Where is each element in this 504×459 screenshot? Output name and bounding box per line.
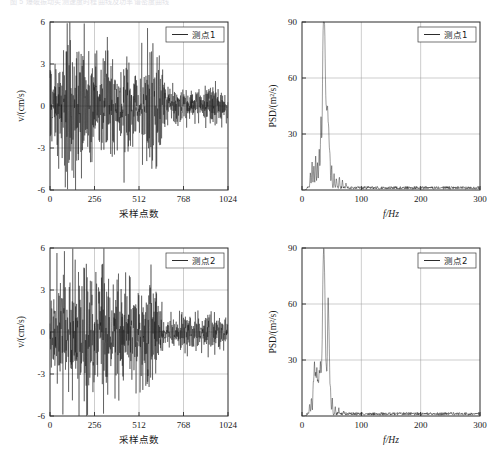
- svg-text:256: 256: [88, 194, 102, 204]
- svg-text:-3: -3: [38, 143, 46, 153]
- svg-text:60: 60: [288, 299, 298, 309]
- svg-text:256: 256: [88, 420, 102, 430]
- svg-text:30: 30: [288, 355, 298, 365]
- svg-text:0: 0: [48, 194, 53, 204]
- panel-top-right: 0100200300906030f/HzPSD/(m²/s)测点1: [252, 14, 504, 230]
- svg-text:-6: -6: [38, 411, 46, 421]
- svg-text:测点2: 测点2: [444, 256, 467, 266]
- svg-text:200: 200: [414, 420, 428, 430]
- svg-text:6: 6: [41, 243, 46, 253]
- svg-text:6: 6: [41, 17, 46, 27]
- panel-bottom-right: 0100200300906030f/HzPSD/(m²/s)测点2: [252, 240, 504, 456]
- svg-text:PSD/(m²/s): PSD/(m²/s): [268, 311, 279, 354]
- svg-text:300: 300: [473, 194, 487, 204]
- svg-text:512: 512: [132, 194, 146, 204]
- svg-text:0: 0: [41, 101, 46, 111]
- svg-text:PSD/(m²/s): PSD/(m²/s): [268, 85, 279, 128]
- panel-bottom-left: 02565127681024630-3-6采样点数v/(cm/s)测点2: [0, 240, 252, 456]
- svg-text:0: 0: [41, 327, 46, 337]
- svg-text:采样点数: 采样点数: [119, 434, 159, 445]
- svg-text:0: 0: [300, 194, 305, 204]
- figure-caption-cutoff: 图 5 爆破振动实测速度时程曲线及功率谱密度曲线: [10, 0, 270, 6]
- svg-text:300: 300: [473, 420, 487, 430]
- panel-top-left: 02565127681024630-3-6采样点数v/(cm/s)测点1: [0, 14, 252, 230]
- svg-text:100: 100: [355, 194, 369, 204]
- svg-text:测点2: 测点2: [192, 256, 215, 266]
- svg-text:f/Hz: f/Hz: [383, 209, 399, 219]
- svg-text:0: 0: [48, 420, 53, 430]
- svg-text:0: 0: [300, 420, 305, 430]
- svg-text:3: 3: [41, 59, 46, 69]
- svg-text:90: 90: [288, 17, 298, 27]
- svg-text:768: 768: [177, 194, 191, 204]
- svg-text:3: 3: [41, 285, 46, 295]
- svg-text:60: 60: [288, 73, 298, 83]
- svg-text:采样点数: 采样点数: [119, 208, 159, 219]
- svg-text:768: 768: [177, 420, 191, 430]
- svg-text:v/(cm/s): v/(cm/s): [16, 90, 27, 122]
- svg-text:30: 30: [288, 129, 298, 139]
- panel-bottom-right-svg: 0100200300906030f/HzPSD/(m²/s)测点2: [252, 240, 504, 456]
- svg-text:90: 90: [288, 243, 298, 253]
- svg-text:200: 200: [414, 194, 428, 204]
- svg-text:f/Hz: f/Hz: [383, 435, 399, 445]
- svg-text:100: 100: [355, 420, 369, 430]
- svg-text:测点1: 测点1: [444, 30, 467, 40]
- svg-text:1024: 1024: [219, 194, 238, 204]
- svg-text:v/(cm/s): v/(cm/s): [16, 316, 27, 348]
- svg-text:测点1: 测点1: [192, 30, 215, 40]
- svg-text:-3: -3: [38, 369, 46, 379]
- panel-top-left-svg: 02565127681024630-3-6采样点数v/(cm/s)测点1: [0, 14, 252, 230]
- panel-bottom-left-svg: 02565127681024630-3-6采样点数v/(cm/s)测点2: [0, 240, 252, 456]
- panel-top-right-svg: 0100200300906030f/HzPSD/(m²/s)测点1: [252, 14, 504, 230]
- svg-text:512: 512: [132, 420, 146, 430]
- svg-text:-6: -6: [38, 185, 46, 195]
- vibration-figure: 图 5 爆破振动实测速度时程曲线及功率谱密度曲线 025651276810246…: [0, 0, 504, 459]
- svg-text:1024: 1024: [219, 420, 238, 430]
